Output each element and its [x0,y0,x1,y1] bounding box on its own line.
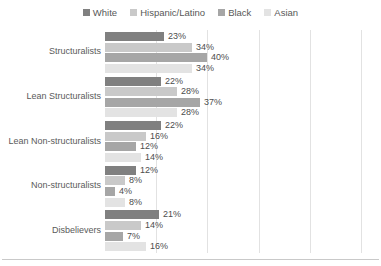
bar-row: 34% [105,64,214,73]
legend-item-label: Asian [274,8,298,18]
bar-value-label: 34% [196,64,214,73]
legend-item[interactable]: Asian [264,8,298,18]
bar-row: 12% [105,142,158,151]
bar-segment[interactable] [105,77,161,86]
bar-segment[interactable] [105,153,141,162]
bar-row: 7% [105,232,140,241]
legend-item-label: White [93,8,117,18]
bar-segment[interactable] [105,210,159,219]
chart-legend: WhiteHispanic/LatinoBlackAsian [0,8,381,18]
bar-value-label: 37% [204,98,222,107]
bar-row: 37% [105,98,222,107]
bar-value-label: 23% [168,32,186,41]
bar-segment[interactable] [105,53,207,62]
category-label: Lean Non-structuralists [0,137,101,146]
legend-item-label: Black [228,8,251,18]
bar-segment[interactable] [105,108,177,117]
category-label: Non-structuralists [0,181,101,190]
category-label: Structuralists [0,47,101,56]
legend-swatch-icon [130,9,137,16]
legend-item[interactable]: Hispanic/Latino [130,8,205,18]
bar-segment[interactable] [105,176,125,185]
bar-groups: 23%34%40%34%22%28%37%28%22%16%12%14%12%8… [105,30,381,253]
bar-segment[interactable] [105,232,123,241]
bar-value-label: 21% [163,210,181,219]
bar-value-label: 14% [145,153,163,162]
category-label: Lean Structuralists [0,92,101,101]
bar-value-label: 8% [129,176,142,185]
bar-value-label: 7% [127,232,140,241]
bar-value-label: 16% [150,132,168,141]
bar-row: 22% [105,121,183,130]
bar-chart: WhiteHispanic/LatinoBlackAsian Structura… [0,0,381,266]
bar-segment[interactable] [105,132,146,141]
bar-segment[interactable] [105,32,164,41]
bar-row: 4% [105,187,132,196]
bar-value-label: 12% [140,166,158,175]
bar-row: 8% [105,198,142,207]
bar-segment[interactable] [105,98,200,107]
bar-row: 8% [105,176,142,185]
bar-segment[interactable] [105,198,125,207]
legend-item[interactable]: White [83,8,117,18]
bar-row: 14% [105,153,163,162]
axis-bottom-line [2,259,379,260]
bar-row: 22% [105,77,183,86]
bar-row: 40% [105,53,229,62]
bar-segment[interactable] [105,87,177,96]
category-label: Disbelievers [0,226,101,235]
bar-row: 28% [105,108,199,117]
bar-segment[interactable] [105,142,136,151]
bar-value-label: 12% [140,142,158,151]
category-axis-labels: StructuralistsLean StructuralistsLean No… [0,30,101,253]
legend-swatch-icon [264,9,271,16]
bar-row: 34% [105,43,214,52]
bar-segment[interactable] [105,166,136,175]
bar-value-label: 14% [145,221,163,230]
bar-row: 21% [105,210,181,219]
bar-value-label: 4% [119,187,132,196]
bar-segment[interactable] [105,221,141,230]
bar-value-label: 28% [181,87,199,96]
bar-segment[interactable] [105,242,146,251]
bar-segment[interactable] [105,64,192,73]
bar-value-label: 8% [129,198,142,207]
bar-row: 16% [105,242,168,251]
legend-swatch-icon [218,9,225,16]
bar-value-label: 40% [211,53,229,62]
bar-segment[interactable] [105,43,192,52]
bar-row: 12% [105,166,158,175]
legend-swatch-icon [83,9,90,16]
bar-segment[interactable] [105,121,161,130]
bar-row: 28% [105,87,199,96]
bar-row: 23% [105,32,186,41]
bar-value-label: 28% [181,108,199,117]
bar-row: 14% [105,221,163,230]
legend-item[interactable]: Black [218,8,251,18]
legend-item-label: Hispanic/Latino [140,8,205,18]
bar-row: 16% [105,132,168,141]
bar-value-label: 16% [150,242,168,251]
bar-value-label: 34% [196,43,214,52]
bar-value-label: 22% [165,121,183,130]
bar-segment[interactable] [105,187,115,196]
bar-value-label: 22% [165,77,183,86]
